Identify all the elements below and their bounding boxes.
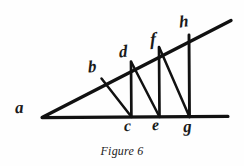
- point-label-d: d: [119, 42, 128, 60]
- point-label-g: g: [182, 118, 192, 136]
- geometry-diagram: [0, 0, 244, 166]
- segment-f-g: [160, 48, 190, 117]
- point-label-h: h: [178, 12, 189, 31]
- point-label-b: b: [88, 57, 97, 75]
- figure-caption: Figure 6: [0, 144, 244, 159]
- figure-container: a b d f h c e g Figure 6: [0, 0, 244, 166]
- point-label-c: c: [123, 118, 131, 134]
- segment-d-e: [132, 63, 160, 117]
- point-label-f: f: [150, 30, 157, 49]
- segment-e-f: [159, 47, 160, 117]
- point-label-a: a: [15, 99, 24, 116]
- segment-upper-ray: [43, 21, 232, 118]
- segment-b-c: [102, 79, 132, 117]
- segment-baseline: [42, 116, 228, 117]
- point-label-e: e: [151, 117, 159, 133]
- segment-g-h: [189, 35, 190, 117]
